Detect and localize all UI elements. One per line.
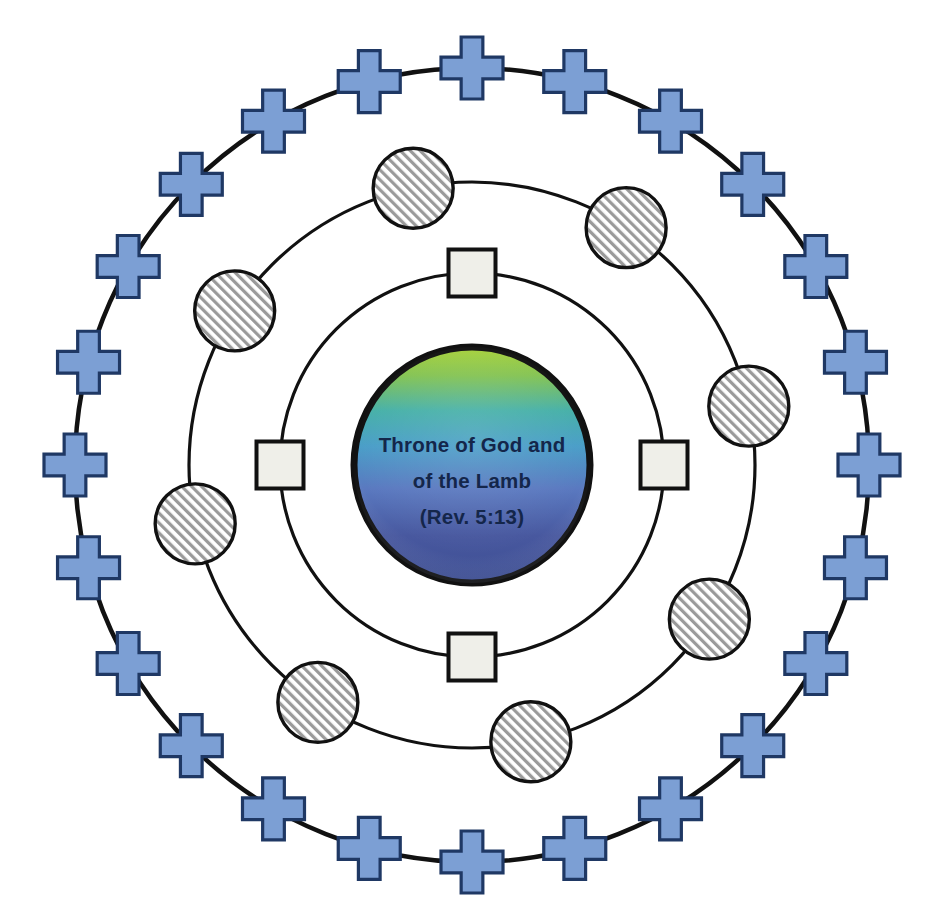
cross-node[interactable] <box>640 778 702 840</box>
square-node[interactable] <box>641 442 688 489</box>
cross-node[interactable] <box>785 633 847 695</box>
throne-label-line-2: of the Lamb <box>413 469 531 492</box>
square-node[interactable] <box>449 634 496 681</box>
hatched-circle-node[interactable] <box>278 662 358 742</box>
hatched-circle-node[interactable] <box>155 484 235 564</box>
cross-node[interactable] <box>544 817 606 879</box>
square-node[interactable] <box>257 442 304 489</box>
throne-label-line-3: (Rev. 5:13) <box>420 505 524 528</box>
diagram-canvas: Throne of God and of the Lamb (Rev. 5:13… <box>0 0 944 921</box>
concentric-rings-diagram: Throne of God and of the Lamb (Rev. 5:13… <box>0 0 944 921</box>
cross-node[interactable] <box>243 778 305 840</box>
hatched-circle-node[interactable] <box>586 188 666 268</box>
hatched-circle-node[interactable] <box>669 579 749 659</box>
hatched-circle-node[interactable] <box>373 148 453 228</box>
cross-node[interactable] <box>44 434 106 496</box>
cross-node[interactable] <box>544 51 606 113</box>
cross-node[interactable] <box>441 37 503 99</box>
cross-node[interactable] <box>338 51 400 113</box>
cross-node[interactable] <box>58 537 120 599</box>
cross-node[interactable] <box>97 633 159 695</box>
cross-node[interactable] <box>838 434 900 496</box>
throne-label-line-1: Throne of God and <box>379 433 566 456</box>
cross-node[interactable] <box>785 236 847 298</box>
throne-circle-shading <box>354 347 590 583</box>
square-node[interactable] <box>449 250 496 297</box>
cross-node[interactable] <box>824 331 886 393</box>
hatched-circle-node[interactable] <box>195 271 275 351</box>
cross-node[interactable] <box>441 831 503 893</box>
cross-node[interactable] <box>243 90 305 152</box>
hatched-circle-node[interactable] <box>491 702 571 782</box>
cross-node[interactable] <box>338 817 400 879</box>
throne-center-node[interactable]: Throne of God and of the Lamb (Rev. 5:13… <box>354 347 590 583</box>
cross-node[interactable] <box>58 331 120 393</box>
cross-node[interactable] <box>97 236 159 298</box>
hatched-circle-node[interactable] <box>709 366 789 446</box>
cross-node[interactable] <box>640 90 702 152</box>
cross-node[interactable] <box>824 537 886 599</box>
